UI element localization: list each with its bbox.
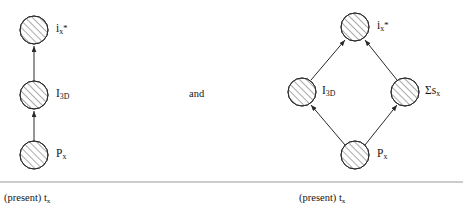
label-left-i3d: I3D	[56, 88, 69, 100]
label-right-i3d-sub: 3D	[326, 89, 336, 98]
caption-left-main: (present) t	[4, 192, 47, 203]
node-right-i-star[interactable]	[341, 13, 369, 41]
node-left-p[interactable]	[20, 141, 48, 169]
label-right-i-star: ix*	[377, 20, 389, 32]
caption-right-sub: x	[342, 197, 346, 205]
node-right-sum[interactable]	[391, 78, 419, 106]
diagram-canvas	[0, 0, 463, 213]
label-left-p-sub: x	[62, 152, 66, 161]
caption-left-present-t: (present) tx	[4, 192, 50, 203]
label-right-p: Px	[377, 148, 387, 160]
label-right-i3d: I3D	[322, 85, 335, 97]
label-left-p: Px	[56, 148, 66, 160]
edge-right-p-to-sum	[365, 105, 397, 145]
left-panel-group	[20, 16, 48, 169]
conjunction-text: and	[189, 88, 204, 99]
figure-container: ix* I3D Px and ix* I3D Σsx Px (present) …	[0, 0, 463, 213]
caption-right-main: (present) t	[299, 192, 342, 203]
label-left-i-sup: *	[63, 23, 68, 33]
label-right-p-sub: x	[383, 152, 387, 161]
node-left-i-star[interactable]	[20, 16, 48, 44]
node-right-p[interactable]	[341, 141, 369, 169]
label-right-i-sup: *	[384, 20, 389, 30]
label-right-sum: Σsx	[425, 85, 440, 97]
node-right-i3d[interactable]	[288, 78, 316, 106]
edge-right-i3d-to-i	[311, 40, 345, 80]
label-left-i3d-sub: 3D	[60, 92, 70, 101]
label-right-sum-sub: x	[436, 89, 440, 98]
node-left-i3d[interactable]	[20, 81, 48, 109]
edge-right-p-to-i3d	[311, 105, 345, 145]
label-left-i-star: ix*	[56, 23, 68, 35]
edge-right-sum-to-i	[365, 40, 397, 80]
caption-right-present-t: (present) tx	[299, 192, 345, 203]
right-panel-group	[288, 13, 419, 169]
label-right-sum-main: Σs	[425, 84, 436, 96]
caption-left-sub: x	[47, 197, 51, 205]
